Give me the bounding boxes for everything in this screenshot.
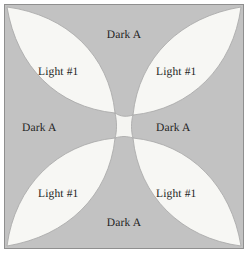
label-light-1-bottom-left: Light #1 [38, 189, 79, 201]
label-light-1-bottom-right: Light #1 [156, 189, 197, 201]
label-dark-a-left: Dark A [22, 123, 56, 135]
center-square-patch [115, 113, 133, 138]
label-light-1-top-right: Light #1 [156, 67, 197, 79]
label-dark-a-bottom: Dark A [5, 218, 243, 230]
label-dark-a-right: Dark A [156, 123, 190, 135]
quilt-block-figure: Dark A Light #1 Light #1 Dark A Dark A L… [0, 0, 252, 261]
label-dark-a-top: Dark A [5, 30, 243, 42]
quilt-block-frame: Dark A Light #1 Light #1 Dark A Dark A L… [4, 4, 244, 249]
label-light-1-top-left: Light #1 [38, 67, 79, 79]
